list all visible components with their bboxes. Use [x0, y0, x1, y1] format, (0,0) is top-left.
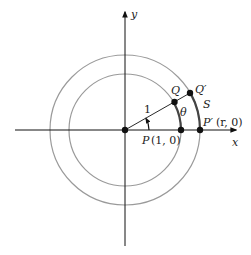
point-p	[178, 127, 184, 133]
x-axis-label: x	[232, 136, 239, 149]
arc-s	[191, 94, 200, 130]
p-prime-label: P′	[202, 116, 213, 129]
point-q	[171, 99, 177, 105]
radius-label: 1	[144, 103, 151, 116]
theta-label: θ	[180, 106, 187, 119]
origin-point	[122, 127, 128, 133]
p-prime-coords: (r, 0)	[216, 116, 243, 129]
q-label: Q	[171, 84, 180, 97]
p-label: P	[141, 134, 150, 147]
p-coords: (1, 0)	[151, 134, 181, 147]
q-prime-label: Q′	[195, 83, 207, 96]
arc-s-label: S	[203, 98, 211, 111]
y-axis-label: y	[130, 8, 138, 21]
angle-arrow	[146, 119, 149, 131]
unit-circle-diagram: y x P (1, 0) P′ (r, 0) Q Q′ 1 θ S	[0, 0, 251, 255]
point-q-prime	[187, 90, 193, 96]
